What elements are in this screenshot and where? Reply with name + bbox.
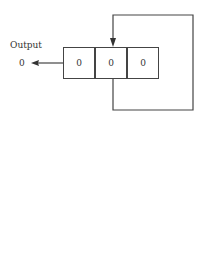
shift-register-diagram: Output 0 0 0 0 (0, 0, 200, 266)
output-label: Output (10, 40, 42, 50)
output-value: 0 (19, 58, 25, 68)
arrow-down-icon (110, 38, 116, 47)
register-cell-2: 0 (95, 47, 127, 79)
arrow-left-icon (31, 60, 39, 66)
register-cell-3: 0 (127, 47, 159, 79)
register-cell-1: 0 (63, 47, 95, 79)
